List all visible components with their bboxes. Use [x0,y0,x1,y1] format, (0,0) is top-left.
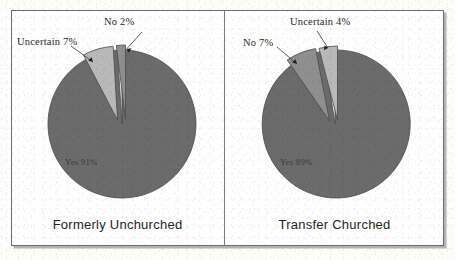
figure-page: No 2% Uncertain 7% Yes 91% Formerly Unch… [0,0,456,260]
leader-line-uncertain-right [317,31,328,48]
callout-label-no-left: No 2% [104,16,134,27]
slice-label-yes-right: Yes 89% [280,157,313,167]
chart-panel-transfer-churched: Uncertain 4% No 7% Yes 89% Transfer Chur… [225,10,444,246]
chart-panel-formerly-unchurched: No 2% Uncertain 7% Yes 91% Formerly Unch… [11,10,224,246]
callout-label-no-right: No 7% [243,37,273,48]
panel-divider [224,11,225,245]
chart-caption-right: Transfer Churched [225,217,444,232]
leader-line-no-left [127,32,143,49]
pie-chart-left: No 2% Uncertain 7% Yes 91% Formerly Unch… [11,10,224,246]
slice-label-yes-left: Yes 91% [65,157,98,167]
callout-label-uncertain-right: Uncertain 4% [290,16,350,27]
chart-caption-left: Formerly Unchurched [11,217,224,232]
callout-label-uncertain-left: Uncertain 7% [17,36,77,47]
pie-chart-right: Uncertain 4% No 7% Yes 89% Transfer Chur… [225,10,444,246]
